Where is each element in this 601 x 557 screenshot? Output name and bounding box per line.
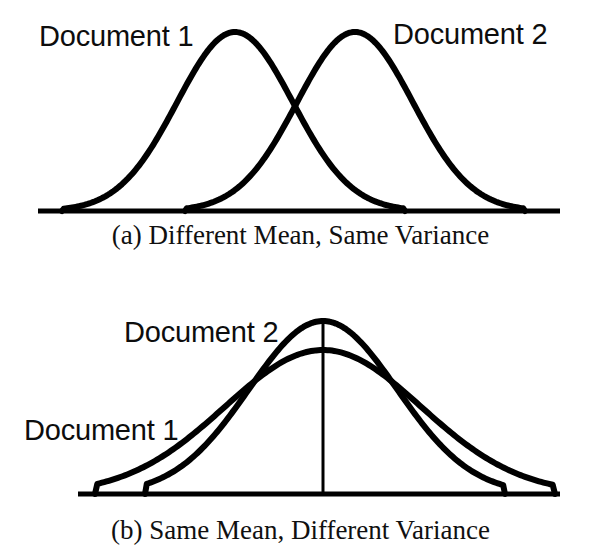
panel-b-caption: (b) Same Mean, Different Variance — [0, 517, 601, 544]
panel-a-label-document-2: Document 2 — [393, 20, 547, 49]
panel-a-curve-document-2 — [185, 32, 525, 211]
panel-a-different-mean: Document 1 Document 2 (a) Different Mean… — [0, 0, 601, 280]
figure-root: Document 1 Document 2 (a) Different Mean… — [0, 0, 601, 557]
panel-a-curve-document-1 — [62, 32, 405, 211]
panel-a-label-document-1: Document 1 — [39, 22, 193, 51]
panel-b-label-document-2: Document 2 — [124, 318, 278, 347]
panel-b-same-mean: Document 2 Document 1 (b) Same Mean, Dif… — [0, 280, 601, 557]
panel-a-caption: (a) Different Mean, Same Variance — [0, 222, 601, 249]
panel-b-label-document-1: Document 1 — [24, 416, 178, 445]
